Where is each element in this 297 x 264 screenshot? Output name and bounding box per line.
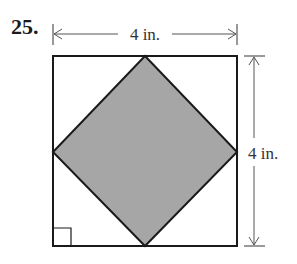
figure: 4 in. 4 in. bbox=[0, 0, 297, 264]
right-dimension: 4 in. bbox=[244, 56, 278, 246]
top-dimension-label: 4 in. bbox=[130, 25, 160, 44]
top-dimension: 4 in. bbox=[53, 24, 237, 45]
right-dimension-label: 4 in. bbox=[248, 144, 278, 163]
